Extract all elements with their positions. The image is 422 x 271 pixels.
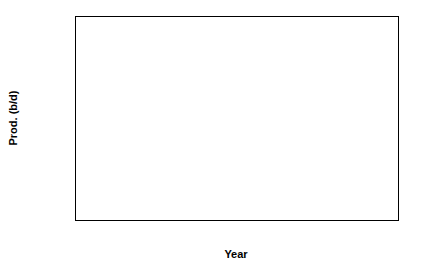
y-axis-title: Prod. (b/d): [7, 90, 19, 145]
chart-canvas: Year Prod. (b/d): [0, 0, 422, 271]
x-axis-title: Year: [224, 248, 248, 260]
production-line-chart: Year Prod. (b/d): [0, 0, 422, 271]
plot-frame: [75, 17, 398, 221]
